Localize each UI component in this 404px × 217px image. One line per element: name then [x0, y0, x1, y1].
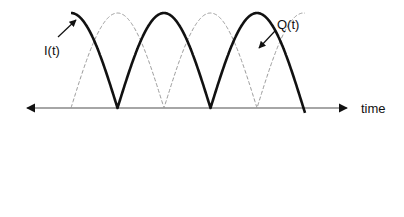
i-curve [71, 13, 305, 113]
q-pointer-arrow [259, 31, 275, 48]
iq-waveform-diagram: I(t) Q(t) time [0, 0, 404, 217]
i-pointer-arrow [58, 20, 76, 37]
q-label: Q(t) [277, 17, 299, 32]
i-label: I(t) [44, 43, 60, 58]
time-axis-label: time [361, 101, 386, 116]
q-curve [71, 13, 305, 108]
